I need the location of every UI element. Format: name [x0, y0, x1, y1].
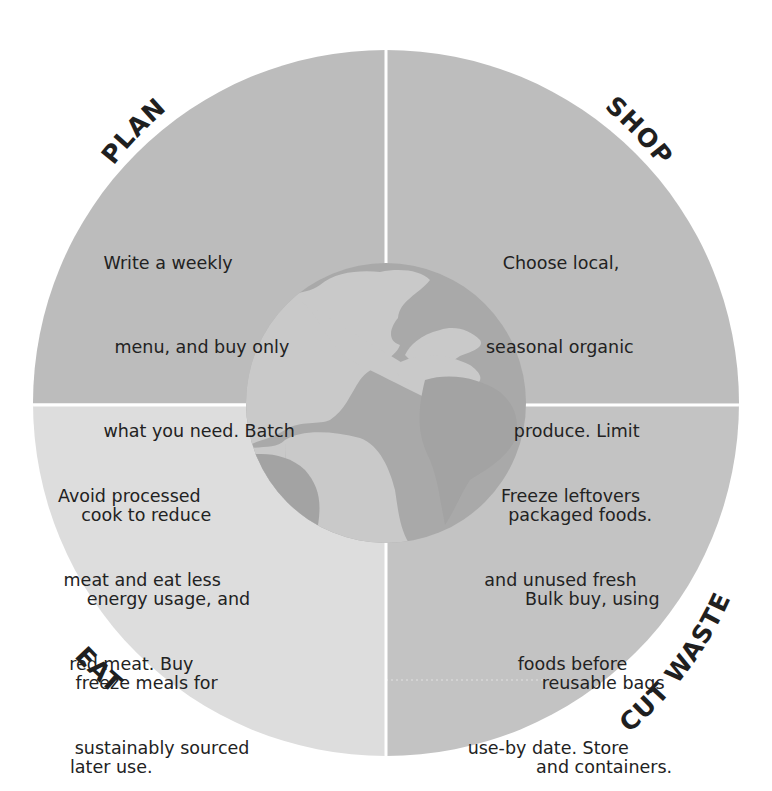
cut-waste-line: and unused fresh [412, 566, 640, 594]
cut-waste-line: foods before [412, 650, 640, 678]
shop-line: Choose local, [486, 249, 672, 277]
shop-line: seasonal organic [486, 333, 672, 361]
eat-line: meat and eat less [58, 566, 323, 594]
eat-line: sustainably sourced [58, 734, 323, 762]
eat-description: Avoid processed meat and eat less red me… [58, 426, 323, 791]
eat-line: Avoid processed [58, 482, 323, 510]
cut-waste-line: Freeze leftovers [412, 482, 640, 510]
eat-line: red meat. Buy [58, 650, 323, 678]
plan-line: menu, and buy only [70, 333, 295, 361]
cut-waste-line: use-by date. Store [412, 734, 640, 762]
cut-waste-description: Freeze leftovers and unused fresh foods … [412, 426, 640, 791]
plan-line: Write a weekly [70, 249, 295, 277]
